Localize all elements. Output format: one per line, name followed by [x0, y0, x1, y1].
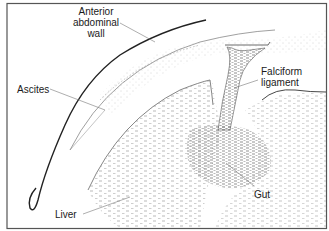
label-line: wall	[71, 28, 121, 39]
label-gut: Gut	[254, 189, 270, 200]
label-line: abdominal	[71, 17, 121, 28]
label-falciform-ligament: Falciform ligament	[261, 66, 302, 88]
leader-ascites	[50, 89, 105, 110]
label-liver: Liver	[55, 209, 77, 220]
label-line: ligament	[261, 77, 302, 88]
label-line: Anterior	[71, 6, 121, 17]
label-ascites: Ascites	[17, 84, 49, 95]
ascites-diagram	[0, 0, 329, 231]
label-line: Falciform	[261, 66, 302, 77]
leader-anterior-abdominal-wall	[120, 23, 155, 42]
leader-ascites-ext	[70, 110, 105, 150]
label-anterior-abdominal-wall: Anterior abdominal wall	[71, 6, 121, 39]
